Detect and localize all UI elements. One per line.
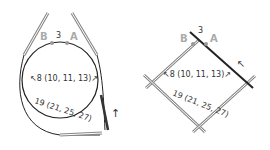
- gap-label: 3: [56, 31, 61, 40]
- width-label: ↖8 (10, 11, 13)↗: [30, 74, 98, 83]
- marker-b: B: [180, 33, 188, 44]
- gap-label: 3: [198, 26, 203, 35]
- needle-bottom: [60, 133, 102, 135]
- width-label: ↖8 (10, 11, 13)↗: [163, 70, 231, 79]
- circular-needle-diagram: B 3 A ↖8 (10, 11, 13)↗ 19 (21, 25, 27) ↑: [20, 13, 120, 135]
- direction-arrow-icon: ↖: [237, 58, 245, 69]
- marker-a: A: [70, 31, 78, 42]
- marker-b: B: [40, 31, 48, 42]
- marker-a: A: [210, 33, 218, 44]
- knitting-diagram: B 3 A ↖8 (10, 11, 13)↗ 19 (21, 25, 27) ↑…: [0, 0, 270, 150]
- length-label: 19 (21, 25, 27): [171, 89, 230, 120]
- dpn-diagram: B 3 A ↖8 (10, 11, 13)↗ 19 (21, 25, 27) ↖: [144, 26, 255, 132]
- direction-arrow-icon: ↑: [111, 107, 120, 120]
- needle-upper-left: [146, 40, 199, 88]
